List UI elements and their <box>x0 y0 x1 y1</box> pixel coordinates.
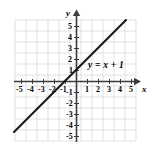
y-tick-label-neg4: -4 <box>66 122 73 130</box>
coordinate-plane-svg <box>0 0 153 153</box>
y-tick-label-5: 5 <box>68 23 72 31</box>
x-tick-label-neg2: -2 <box>49 86 56 94</box>
x-tick-label-neg3: -3 <box>38 86 45 94</box>
y-tick-label-3: 3 <box>68 45 72 53</box>
x-tick-label-neg5: -5 <box>16 86 23 94</box>
x-tick-label-1: 1 <box>85 86 89 94</box>
y-tick-label-neg5: -5 <box>66 133 73 141</box>
x-tick-label-2: 2 <box>96 86 100 94</box>
x-tick-label-3: 3 <box>107 86 111 94</box>
y-tick-label-neg1: -1 <box>66 89 73 97</box>
x-tick-label-5: 5 <box>129 86 133 94</box>
graph-figure: -5 -4 -3 -2 -1 1 2 3 4 5 5 4 3 2 1 -1 -2… <box>0 0 153 153</box>
y-tick-label-2: 2 <box>68 56 72 64</box>
y-tick-label-neg2: -2 <box>66 100 73 108</box>
x-tick-label-4: 4 <box>118 86 122 94</box>
y-axis <box>73 10 80 143</box>
x-axis-label: x <box>142 85 147 94</box>
y-tick-label-1: 1 <box>69 67 73 75</box>
y-axis-label: y <box>66 9 70 18</box>
y-tick-label-4: 4 <box>68 34 72 42</box>
x-tick-label-neg4: -4 <box>27 86 34 94</box>
y-tick-label-neg3: -3 <box>66 111 73 119</box>
equation-annotation: y = x + 1 <box>88 60 124 70</box>
grid-lines <box>15 20 136 141</box>
